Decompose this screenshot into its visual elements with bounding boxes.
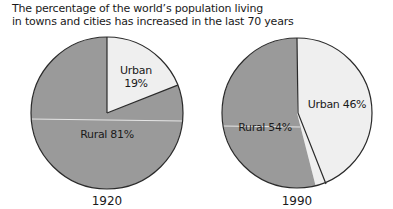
pie-1920-rural-label: Rural 81%: [80, 128, 134, 141]
pie-1920-year-label: 1920: [92, 194, 123, 208]
pie-1990-rural-label: Rural 54%: [238, 121, 292, 134]
pie-1990-urban-label: Urban 46%: [308, 98, 367, 111]
pie-chart-1920: Urban 19% Rural 81% 1920: [31, 37, 183, 208]
pie-1990-year-label: 1990: [282, 194, 313, 208]
pie-1920-urban-label-line-2: 19%: [124, 77, 148, 90]
pie-1920-urban-label-line-1: Urban: [120, 64, 152, 77]
pie-charts: Urban 19% Rural 81% 1920 Urban 46% Rural…: [0, 0, 393, 209]
pie-chart-1990: Urban 46% Rural 54% 1990: [222, 38, 372, 208]
